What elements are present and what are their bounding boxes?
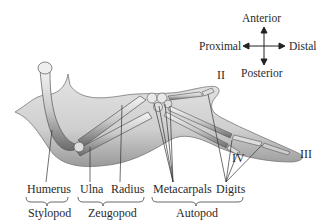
- label-ulna: Ulna: [80, 183, 103, 196]
- label-zeugopod: Zeugopod: [88, 207, 137, 220]
- region-braces: [26, 197, 243, 206]
- label-digit-iii: III: [300, 148, 312, 161]
- label-posterior: Posterior: [241, 67, 283, 80]
- label-radius: Radius: [111, 183, 144, 196]
- label-anterior: Anterior: [242, 12, 281, 25]
- label-proximal: Proximal: [199, 40, 241, 53]
- label-humerus: Humerus: [27, 183, 71, 196]
- label-digit-ii: II: [217, 69, 225, 82]
- label-stylopod: Stylopod: [28, 207, 71, 220]
- label-metacarpals: Metacarpals: [153, 183, 212, 196]
- label-distal: Distal: [289, 40, 316, 53]
- limb-skin: [15, 74, 302, 167]
- label-digits: Digits: [216, 183, 245, 196]
- label-autopod: Autopod: [176, 207, 218, 220]
- orientation-compass: [243, 27, 285, 65]
- label-digit-iv: IV: [232, 152, 245, 165]
